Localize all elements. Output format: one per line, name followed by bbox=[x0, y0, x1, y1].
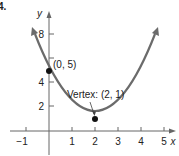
x-tick-label: 1 bbox=[69, 136, 75, 147]
vertex-pointer-arrow-icon bbox=[92, 111, 96, 116]
point-label-y-intercept: (0, 5) bbox=[53, 59, 76, 70]
y-tick-label: 8 bbox=[38, 29, 44, 40]
parabola-chart: −1 1 2 3 4 5 x 8 4 2 y 4. (0, 5) Vertex:… bbox=[0, 0, 179, 156]
x-axis-label: x bbox=[170, 136, 177, 147]
y-axis-label: y bbox=[36, 8, 43, 19]
x-tick-label: 5 bbox=[161, 136, 167, 147]
problem-label: 4. bbox=[0, 1, 7, 12]
point-label-vertex: Vertex: (2, 1) bbox=[67, 89, 124, 100]
x-axis-arrow-icon bbox=[169, 129, 176, 134]
x-tick-label: 4 bbox=[138, 136, 144, 147]
y-axis-arrow-icon bbox=[47, 11, 52, 18]
x-tick-label: 2 bbox=[92, 136, 98, 147]
x-tick-label: 3 bbox=[115, 136, 121, 147]
point-vertex bbox=[92, 116, 98, 122]
point-y-intercept bbox=[46, 68, 52, 74]
y-tick-label: 2 bbox=[38, 101, 44, 112]
x-ticks bbox=[26, 127, 164, 131]
x-tick-label: −1 bbox=[16, 136, 28, 147]
y-tick-label: 4 bbox=[38, 77, 44, 88]
